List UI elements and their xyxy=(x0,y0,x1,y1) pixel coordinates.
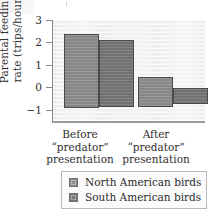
legend-label-south-american: South American birds xyxy=(85,192,201,203)
x-label-before-line-2: “predator” xyxy=(36,141,124,154)
scan-bleed-artifact xyxy=(0,0,220,14)
x-label-after-line-1: After xyxy=(112,128,200,141)
legend-item-south-american: South American birds xyxy=(69,190,206,205)
bar-texture xyxy=(65,35,98,107)
bar-before-north-american xyxy=(64,34,99,108)
legend: North American birds South American bird… xyxy=(61,171,207,209)
bar-texture xyxy=(174,89,207,104)
y-tick-label-0: 0 xyxy=(14,82,42,93)
bar-before-south-american xyxy=(99,40,134,108)
bar-texture xyxy=(139,78,172,106)
x-label-before-line-1: Before xyxy=(36,128,124,141)
x-axis-group-label-before: Before “predator” presentation xyxy=(36,128,124,166)
plot-area xyxy=(52,20,205,122)
y-tick-label-2: 2 xyxy=(14,37,42,48)
legend-item-north-american: North American birds xyxy=(69,175,206,190)
legend-label-north-american: North American birds xyxy=(85,177,201,188)
south-american-swatch-icon xyxy=(69,193,78,202)
y-tick-label-minus-1: −1 xyxy=(14,105,42,116)
x-label-before-line-3: presentation xyxy=(36,153,124,166)
plot-bottom-border xyxy=(52,121,205,122)
x-label-after-line-2: “predator” xyxy=(112,141,200,154)
bar-after-south-american xyxy=(173,88,208,105)
y-tick-label-1: 1 xyxy=(14,60,42,71)
y-tick-label-3: 3 xyxy=(14,15,42,26)
bar-texture xyxy=(100,41,133,107)
y-axis-title-line-1: Parental feeding xyxy=(0,0,10,87)
bar-after-north-american xyxy=(138,77,173,107)
x-label-after-line-3: presentation xyxy=(112,153,200,166)
x-axis-group-label-after: After “predator” presentation xyxy=(112,128,200,166)
figure-grouped-bar-chart: Parental feeding rate (trips/hour) 3 2 1… xyxy=(0,0,220,216)
scan-bleed-tick-artifact xyxy=(66,1,67,6)
north-american-swatch-icon xyxy=(69,178,78,187)
